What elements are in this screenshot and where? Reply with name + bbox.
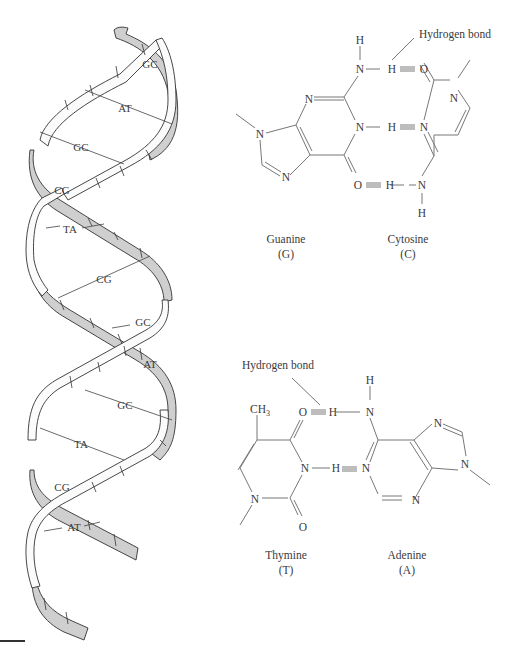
atom: N (461, 458, 470, 470)
hydrogen-bond-marker (342, 466, 357, 472)
helix-front-strand-1 (40, 40, 162, 146)
atom: N (418, 179, 427, 191)
bp-label: GC (73, 141, 88, 153)
bp-label: CG (54, 481, 69, 493)
thymine-abbr: (T) (279, 564, 294, 577)
bp-label: GC (135, 316, 150, 328)
base-pair-labels: GC AT GC CG TA CG GC AT GC TA CG AT (54, 58, 157, 533)
bp-label: GC (117, 399, 132, 411)
bp-label: CG (54, 184, 69, 196)
adenine-abbr: (A) (399, 564, 415, 577)
atom: N (366, 406, 375, 418)
hydrogen-bond-marker (311, 409, 326, 415)
atom: N (420, 121, 429, 133)
atom: N (356, 121, 365, 133)
bp-label: GC (142, 58, 157, 70)
atom: O (354, 179, 362, 191)
hydrogen-bond-label: Hydrogen bond (242, 359, 314, 372)
atom: N (251, 493, 260, 505)
atom: N (301, 462, 310, 474)
double-helix: GC AT GC CG TA CG GC AT GC TA CG AT (0, 27, 178, 641)
guanine-cytosine-pair: H N H O N N H N N N N O H N H Hydrogen b… (236, 28, 491, 261)
atom: N (412, 494, 421, 506)
atom: N (362, 462, 371, 474)
guanine-label: Guanine (267, 233, 306, 245)
bp-label: TA (63, 223, 77, 235)
cytosine-label: Cytosine (388, 233, 429, 246)
thymine-adenine-pair: O H N H N H N N N N N O CH3 Hydrogen bon… (238, 359, 490, 577)
bp-label: TA (74, 438, 88, 450)
ta-bonds (238, 378, 490, 525)
hydrogen-bond-label: Hydrogen bond (419, 28, 491, 41)
atom: O (420, 63, 428, 75)
hydrogen-bond-marker (400, 66, 415, 72)
atom: H (366, 374, 374, 386)
atom: N (256, 128, 265, 140)
adenine-label: Adenine (388, 549, 427, 561)
dna-figure: GC AT GC CG TA CG GC AT GC TA CG AT (0, 0, 518, 645)
bp-label: CG (96, 273, 111, 285)
atom: O (299, 406, 307, 418)
atom: H (418, 207, 426, 219)
bp-label: AT (67, 521, 81, 533)
atom: N (434, 417, 443, 429)
bp-label: AT (143, 358, 157, 370)
guanine-abbr: (G) (278, 248, 294, 261)
bp-label: AT (118, 102, 132, 114)
hydrogen-bond-marker (400, 124, 415, 130)
atom: H (388, 63, 396, 75)
thymine-label: Thymine (265, 549, 307, 562)
methyl-group: CH3 (250, 403, 270, 418)
atom: N (450, 92, 459, 104)
atom: N (282, 171, 291, 183)
atom: O (299, 521, 307, 533)
atom: H (329, 406, 337, 418)
atom: H (388, 121, 396, 133)
atom: N (305, 93, 314, 105)
atom: H (386, 179, 394, 191)
atom: N (356, 63, 365, 75)
atom: H (332, 462, 340, 474)
helix-back-strand-5 (32, 580, 88, 640)
hydrogen-bond-marker (366, 182, 381, 188)
atom: H (356, 34, 364, 46)
cytosine-abbr: (C) (400, 248, 416, 261)
